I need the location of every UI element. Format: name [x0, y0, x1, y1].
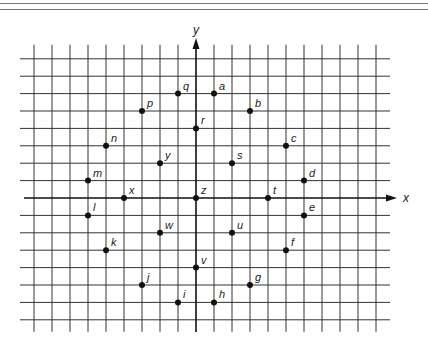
point-label-q: q [183, 80, 190, 92]
point-label-c: c [291, 132, 297, 144]
point-j [139, 282, 145, 288]
coordinate-grid: x y abcdefghijklmnpqrstuvwxyz [0, 0, 428, 350]
point-label-r: r [201, 114, 206, 126]
point-m [85, 178, 91, 184]
point-label-m: m [93, 167, 102, 179]
point-c [283, 143, 289, 149]
points: abcdefghijklmnpqrstuvwxyz [85, 80, 316, 306]
y-axis-label: y [192, 23, 200, 37]
point-label-a: a [219, 80, 225, 92]
point-v [193, 265, 199, 271]
point-x [121, 195, 127, 201]
point-label-f: f [291, 236, 295, 248]
point-label-k: k [111, 236, 117, 248]
point-b [247, 108, 253, 114]
point-label-j: j [145, 271, 150, 283]
point-e [301, 212, 307, 218]
point-label-x: x [128, 184, 135, 196]
point-label-g: g [255, 271, 262, 283]
point-q [175, 91, 181, 97]
x-axis-label: x [402, 191, 410, 205]
point-r [193, 125, 199, 131]
point-l [85, 212, 91, 218]
point-y [157, 160, 163, 166]
point-f [283, 247, 289, 253]
point-label-n: n [111, 132, 117, 144]
point-h [211, 299, 217, 305]
point-label-u: u [237, 219, 243, 231]
point-label-d: d [309, 167, 316, 179]
point-i [175, 299, 181, 305]
axes: x y [24, 23, 410, 332]
point-g [247, 282, 253, 288]
point-label-e: e [309, 201, 315, 213]
point-s [229, 160, 235, 166]
point-label-w: w [165, 219, 174, 231]
point-label-i: i [183, 288, 186, 300]
point-u [229, 230, 235, 236]
point-label-z: z [200, 184, 207, 196]
y-axis-arrow-icon [193, 38, 200, 49]
point-t [265, 195, 271, 201]
point-label-h: h [219, 288, 225, 300]
point-label-s: s [237, 149, 243, 161]
point-a [211, 91, 217, 97]
point-p [139, 108, 145, 114]
point-label-b: b [255, 97, 261, 109]
x-axis-arrow-icon [386, 195, 397, 202]
point-d [301, 178, 307, 184]
point-w [157, 230, 163, 236]
point-n [103, 143, 109, 149]
point-k [103, 247, 109, 253]
point-z [193, 195, 199, 201]
point-label-l: l [93, 201, 96, 213]
point-label-y: y [164, 149, 172, 161]
point-label-v: v [201, 254, 208, 266]
point-label-t: t [273, 184, 277, 196]
point-label-p: p [146, 97, 153, 109]
